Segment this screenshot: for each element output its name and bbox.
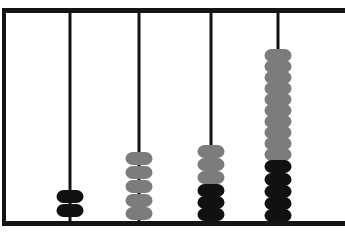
abacus-diagram <box>0 0 345 233</box>
rod-1-bead-1-black[interactable] <box>57 190 84 203</box>
frame-bottom-bar <box>2 221 345 226</box>
rod-2-bead-4-gray[interactable] <box>126 194 153 207</box>
rod-4-bead-11-black[interactable] <box>265 160 292 173</box>
rod-2-bead-2-gray[interactable] <box>126 166 153 179</box>
rod-3-bead-6-black[interactable] <box>198 208 225 221</box>
rod-3-bead-2-gray[interactable] <box>198 158 225 171</box>
frame-left-bar <box>2 8 6 226</box>
rod-1-bead-2-black[interactable] <box>57 204 84 217</box>
rod-2-bead-1-gray[interactable] <box>126 152 153 165</box>
frame-top-bar <box>4 8 345 13</box>
rod-2-bead-3-gray[interactable] <box>126 180 153 193</box>
rod-4-bead-15-black[interactable] <box>265 209 292 222</box>
rod-3-bead-3-gray[interactable] <box>198 171 225 184</box>
rod-2-bead-5-gray[interactable] <box>126 207 153 220</box>
rod-3-bead-1-gray[interactable] <box>198 145 225 158</box>
